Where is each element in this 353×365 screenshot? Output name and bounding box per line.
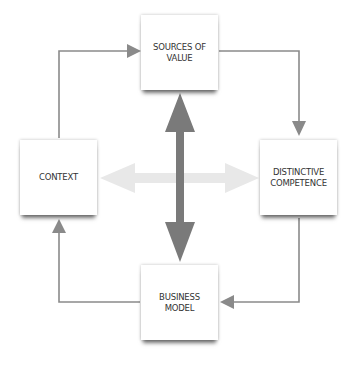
node-label: BUSINESS MODEL xyxy=(159,292,200,314)
node-label: SOURCES OF VALUE xyxy=(153,42,206,64)
node-context: CONTEXT xyxy=(20,140,97,215)
arrowhead-down-icon xyxy=(292,121,306,136)
node-label: DISTINCTIVE COMPETENCE xyxy=(270,167,327,189)
node-business-model: BUSINESS MODEL xyxy=(141,265,218,340)
arrowhead-up-icon xyxy=(52,219,66,233)
arrowhead-right-icon xyxy=(127,44,141,58)
node-distinctive-competence: DISTINCTIVE COMPETENCE xyxy=(260,140,337,215)
cycle-diagram: SOURCES OF VALUE CONTEXT DISTINCTIVE COM… xyxy=(0,0,353,365)
node-label: CONTEXT xyxy=(39,172,78,183)
arrowhead-left-icon xyxy=(220,295,234,309)
node-sources-of-value: SOURCES OF VALUE xyxy=(141,15,218,90)
